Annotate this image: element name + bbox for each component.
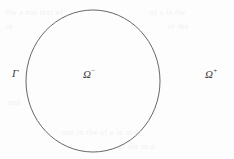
label-omega-minus: Ω− bbox=[83, 69, 95, 80]
label-omega-plus-sign: + bbox=[213, 67, 217, 75]
label-omega-plus: Ω+ bbox=[205, 69, 217, 80]
label-omega-minus-sign: − bbox=[91, 67, 95, 75]
label-omega-plus-symbol: Ω bbox=[205, 68, 213, 80]
domain-diagram: the a not text of of a is the in of the … bbox=[0, 0, 234, 159]
label-gamma-symbol: Γ bbox=[12, 67, 18, 79]
boundary-svg bbox=[0, 0, 234, 159]
label-omega-minus-symbol: Ω bbox=[83, 68, 91, 80]
label-gamma: Γ bbox=[12, 68, 18, 79]
interface-curve bbox=[26, 10, 160, 152]
